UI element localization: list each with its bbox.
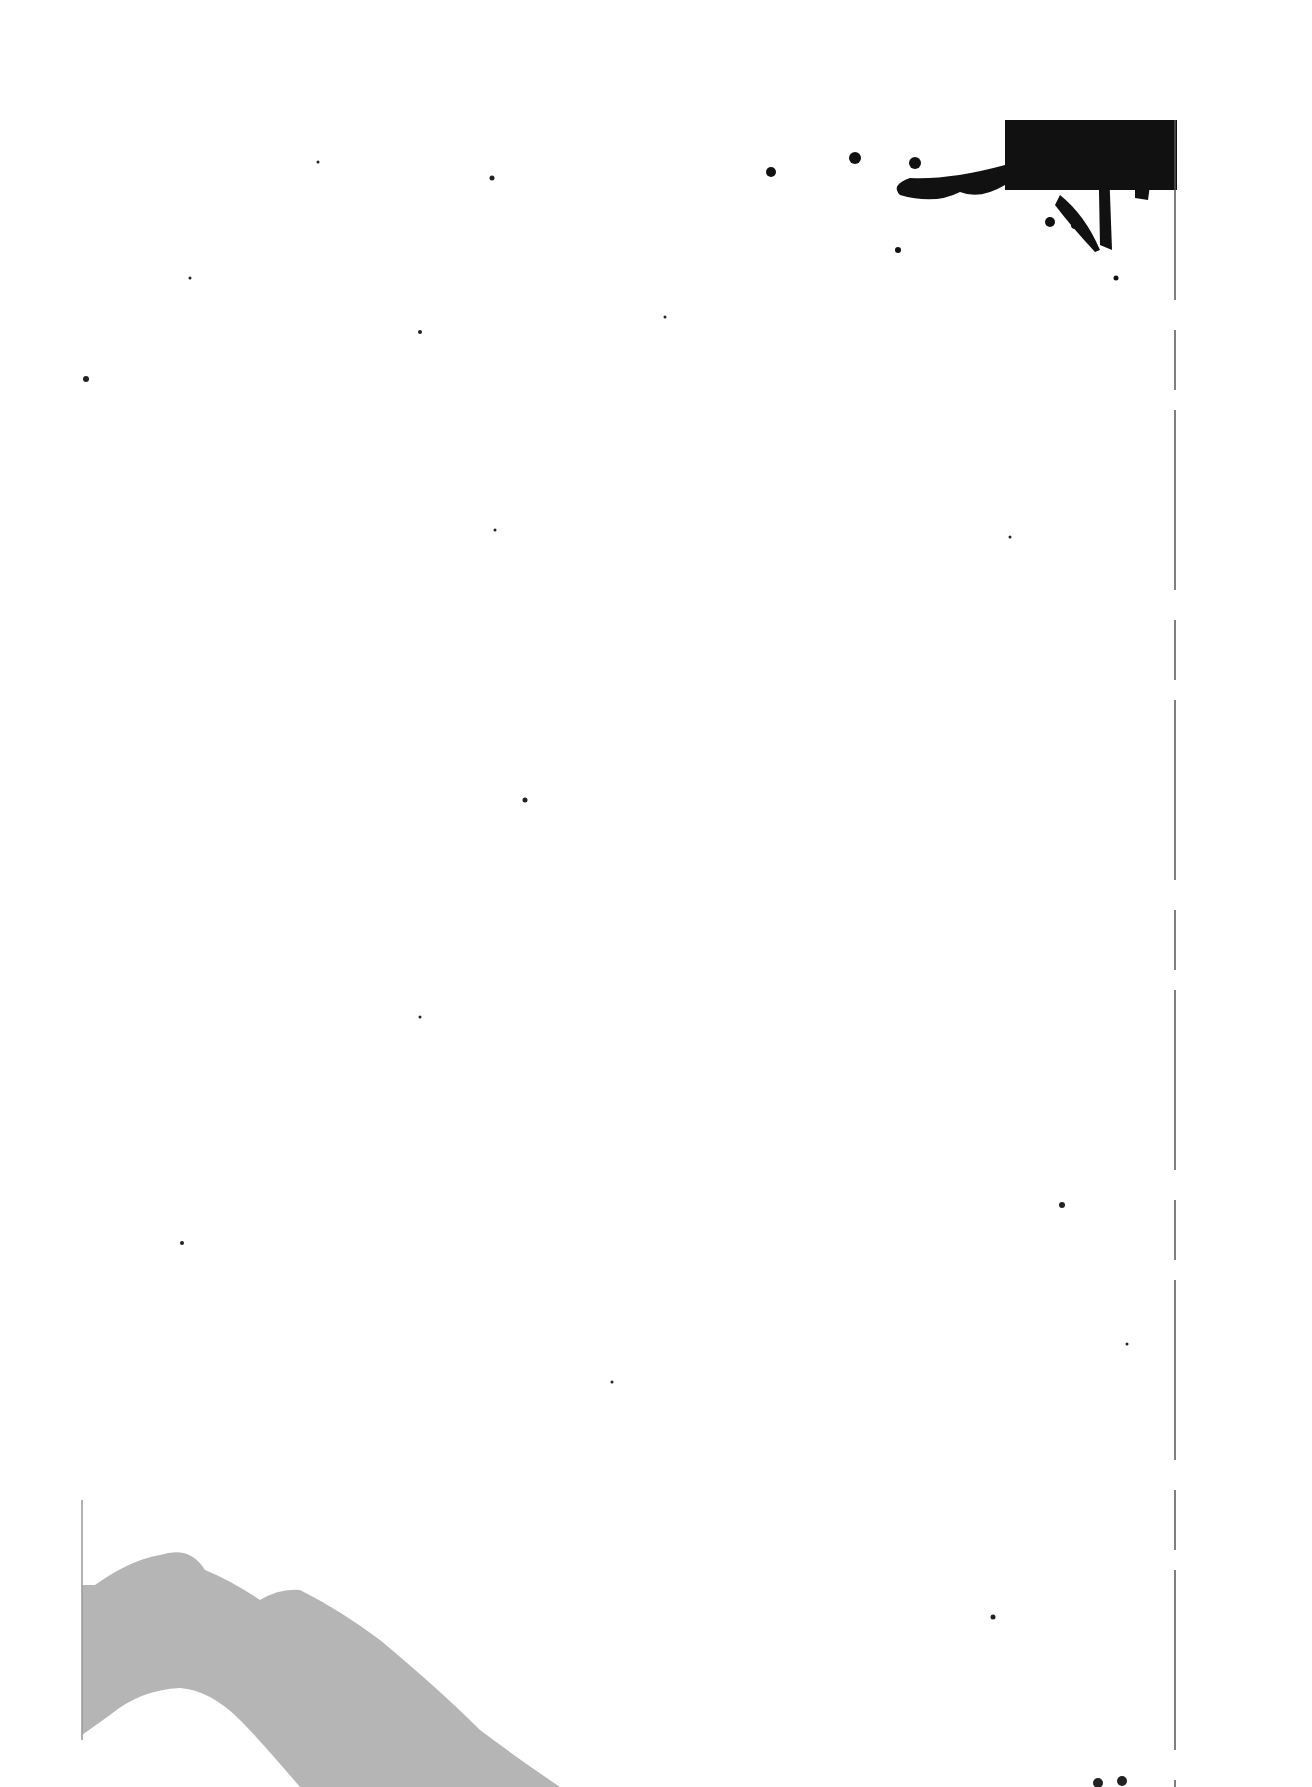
scanned-document-page: [0, 0, 1312, 1787]
scan-artifacts: [0, 0, 1312, 1787]
